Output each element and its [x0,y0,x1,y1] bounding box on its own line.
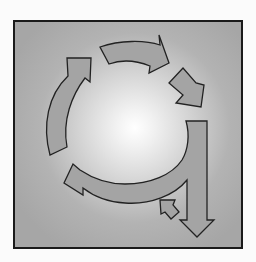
right-short-arrow-icon [169,68,204,107]
left-arc-arrow-icon [47,58,91,155]
cycle-diagram [0,0,256,262]
top-arc-arrow-icon [100,35,169,73]
small-return-arrow-icon [160,200,179,219]
down-exit-arrow-icon [64,121,214,237]
